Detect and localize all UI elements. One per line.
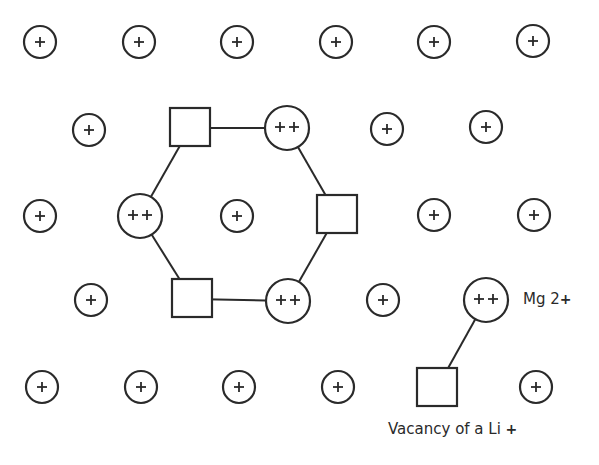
legend-mg-charge: + <box>560 291 572 307</box>
legend-mg-text: Mg 2 <box>523 290 560 308</box>
li-ion <box>223 371 255 403</box>
li-ion <box>221 200 253 232</box>
li-ion <box>367 284 399 316</box>
legend-vacancy-charge: + <box>506 421 518 437</box>
lattice-canvas <box>0 0 599 465</box>
lattice-diagram: Mg 2+ Vacancy of a Li + <box>0 0 599 465</box>
legend-vacancy-label: Vacancy of a Li + <box>388 422 517 437</box>
li-ion <box>24 200 56 232</box>
li-ion <box>520 371 552 403</box>
li-ion <box>125 371 157 403</box>
li-ion <box>517 25 549 57</box>
bonds-layer <box>140 128 486 388</box>
vacancy-hex-right <box>317 195 357 233</box>
li-ion <box>371 113 403 145</box>
li-ion <box>73 114 105 146</box>
li-ion <box>123 26 155 58</box>
vacancy-hex-bottom-left <box>172 279 212 317</box>
li-ion <box>518 199 550 231</box>
mg-ion-hex-bottom-right <box>266 279 310 323</box>
mg-ion-hex-left <box>118 194 162 238</box>
li-ion <box>75 284 107 316</box>
legend-vacancy-text: Vacancy of a Li <box>388 420 506 438</box>
vacancy-hex-top-left <box>170 108 210 146</box>
li-ion <box>470 111 502 143</box>
li-ion-layer <box>24 25 552 403</box>
li-ion <box>418 199 450 231</box>
li-ion <box>322 371 354 403</box>
li-ion <box>418 26 450 58</box>
li-ion <box>26 371 58 403</box>
legend-mg-label: Mg 2+ <box>523 292 572 307</box>
li-ion <box>24 26 56 58</box>
li-ion <box>221 26 253 58</box>
mg-ion-hex-top-right <box>265 106 309 150</box>
vacancy-legend-vacancy <box>417 368 457 406</box>
li-ion <box>320 26 352 58</box>
mg-ion-legend-mg <box>464 278 508 322</box>
